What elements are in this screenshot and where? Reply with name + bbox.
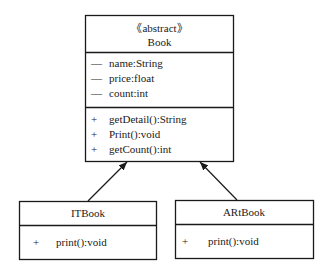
method-print: print():void <box>56 236 107 249</box>
class-book-name: Book <box>148 36 172 48</box>
attr-count: count:int <box>109 87 148 99</box>
class-book-stereotype: 《abstract》 <box>131 22 187 34</box>
method-print: Print():void <box>109 128 161 141</box>
method-visibility: + <box>91 113 97 125</box>
attr-name: name:String <box>109 57 163 69</box>
attr-visibility: — <box>90 87 103 99</box>
method-print: print():void <box>208 235 259 248</box>
class-artbook-name: ARtBook <box>223 206 266 218</box>
class-artbook: ARtBook + print():void <box>176 201 314 259</box>
method-getcount: getCount():int <box>109 143 171 156</box>
method-visibility: + <box>182 235 188 247</box>
class-itbook: ITBook + print():void <box>20 202 157 260</box>
uml-diagram: 《abstract》 Book — name:String — price:fl… <box>0 0 326 276</box>
attr-visibility: — <box>90 57 103 69</box>
generalization-arrow-artbook <box>200 162 237 200</box>
class-itbook-name: ITBook <box>71 207 106 219</box>
method-visibility: + <box>91 143 97 155</box>
method-visibility: + <box>91 128 97 140</box>
method-getdetail: getDetail():String <box>109 113 187 126</box>
generalization-arrow-itbook <box>88 162 127 201</box>
class-book: 《abstract》 Book — name:String — price:fl… <box>86 16 234 162</box>
method-visibility: + <box>33 236 39 248</box>
attr-price: price:float <box>109 72 154 84</box>
attr-visibility: — <box>90 72 103 84</box>
